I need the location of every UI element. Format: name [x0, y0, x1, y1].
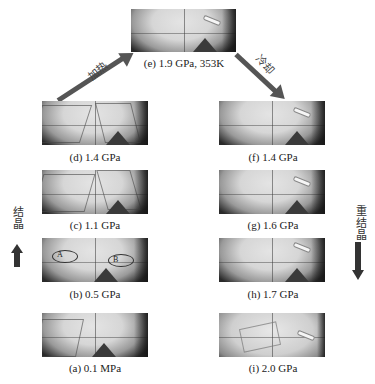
region-a-label: A: [57, 250, 63, 259]
caption-a: (a) 0.1 MPa: [35, 362, 155, 374]
crystal-streak: [293, 107, 312, 118]
micrograph-a: [42, 313, 148, 357]
grain-boundary: [42, 174, 95, 212]
crosshair-vertical: [272, 170, 273, 214]
caption-d: (d) 1.4 GPa: [35, 151, 155, 163]
micrograph-b: A B: [42, 238, 148, 282]
crystallization-arrow-shaft: [14, 253, 20, 267]
caption-c: (c) 1.1 GPa: [35, 219, 155, 231]
crosshair-horizontal: [219, 194, 325, 195]
crosshair-vertical: [272, 101, 273, 145]
crystal-streak: [297, 330, 316, 341]
caption-h: (h) 1.7 GPa: [213, 288, 333, 300]
vignette-edge: [311, 170, 325, 214]
recrystallized-grain: [239, 321, 281, 352]
crystal-shard: [285, 131, 309, 145]
region-a-marker: [52, 250, 78, 263]
micrograph-e: [131, 9, 236, 52]
crystal-shard: [106, 131, 130, 145]
crystal-streak: [293, 176, 312, 187]
region-b-marker: [108, 254, 134, 267]
crystallization-arrow: [11, 244, 23, 253]
recrystallization-arrow-shaft: [355, 242, 361, 270]
crosshair-vertical: [272, 238, 273, 282]
crystallization-label: 结晶: [9, 206, 25, 230]
crosshair-horizontal: [219, 262, 325, 263]
crosshair-horizontal: [219, 125, 325, 126]
vignette-edge: [134, 101, 148, 145]
region-b-label: B: [113, 255, 118, 264]
caption-g: (g) 1.6 GPa: [213, 219, 333, 231]
vignette-edge: [134, 238, 148, 282]
vignette-edge: [222, 9, 236, 52]
micrograph-d: [42, 101, 148, 145]
caption-b: (b) 0.5 GPa: [35, 288, 155, 300]
vignette-edge: [311, 238, 325, 282]
crystal-streak: [293, 242, 312, 253]
crosshair-vertical: [184, 9, 185, 52]
vignette-edge: [134, 313, 148, 357]
vignette-edge: [317, 313, 325, 357]
crystal-shard: [193, 38, 217, 52]
crystal-shard: [285, 268, 309, 282]
caption-f: (f) 1.4 GPa: [213, 151, 333, 163]
vignette-edge: [311, 101, 325, 145]
grain-boundary: [42, 105, 92, 143]
crystal-streak: [203, 15, 222, 26]
recrystallization-arrow: [352, 270, 364, 280]
crystal-shard: [92, 343, 116, 357]
crystal-shard: [94, 268, 118, 282]
recrystallization-label: 重结晶: [352, 205, 368, 241]
crosshair-vertical: [95, 170, 96, 214]
micrograph-h: [219, 238, 325, 282]
micrograph-g: [219, 170, 325, 214]
caption-i: (i) 2.0 GPa: [213, 362, 333, 374]
crystal-shard: [285, 200, 309, 214]
micrograph-i: [219, 313, 325, 357]
caption-e: (e) 1.9 GPa, 353K: [124, 57, 244, 69]
micrograph-c: [42, 170, 148, 214]
crystal-shard: [106, 200, 130, 214]
micrograph-f: [219, 101, 325, 145]
grain-boundary: [42, 319, 84, 357]
vignette-edge: [134, 170, 148, 214]
crosshair-horizontal: [131, 33, 236, 34]
